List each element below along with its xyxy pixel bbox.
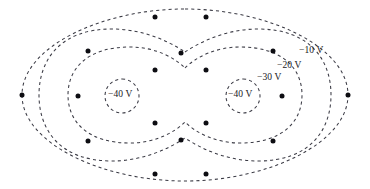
contour-contour-30v — [68, 47, 302, 143]
contour-point-marker — [280, 94, 285, 99]
voltage-label-v-40-left: −40 V — [108, 90, 132, 100]
contour-point-marker — [346, 93, 351, 98]
contour-group — [22, 9, 348, 181]
contour-point-marker — [179, 138, 184, 143]
contour-point-marker — [153, 15, 158, 20]
contour-point-marker — [271, 139, 276, 144]
voltage-label-v-20: −20 V — [277, 61, 301, 71]
contour-point-marker — [271, 49, 276, 54]
contour-point-marker — [153, 172, 158, 177]
contour-contour-10v — [22, 9, 348, 181]
contour-contour-20v — [39, 29, 331, 161]
contour-point-marker — [86, 139, 91, 144]
contour-point-marker — [153, 121, 158, 126]
contour-point-marker — [204, 15, 209, 20]
voltage-label-v-40-right: −40 V — [228, 90, 252, 100]
contour-point-marker — [204, 172, 209, 177]
contour-point-marker — [204, 68, 209, 73]
contour-point-marker — [76, 94, 81, 99]
contour-point-marker — [86, 49, 91, 54]
contour-point-marker — [20, 93, 25, 98]
contour-point-marker — [179, 51, 184, 56]
voltage-label-v-10: −10 V — [299, 46, 323, 56]
contour-point-marker — [153, 68, 158, 73]
contour-canvas — [0, 0, 370, 189]
contour-point-marker — [204, 121, 209, 126]
voltage-label-v-30: −30 V — [257, 73, 281, 83]
equipotential-contour-figure: −10 V−20 V−30 V−40 V−40 V — [0, 0, 370, 189]
